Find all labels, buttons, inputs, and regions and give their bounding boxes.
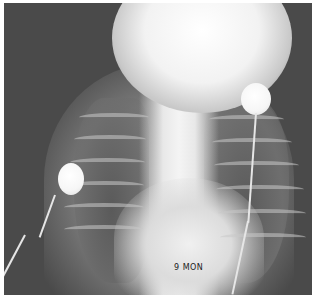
rib — [79, 113, 149, 122]
age-marker-label: 9 MON — [174, 263, 203, 272]
rib — [220, 233, 306, 242]
rib — [209, 115, 284, 124]
xray-image: 9 MON — [4, 3, 312, 295]
rib — [74, 135, 146, 144]
electrode-wire — [4, 235, 26, 289]
rib — [214, 161, 299, 170]
right-chest-electrode — [58, 163, 84, 195]
rib — [64, 225, 144, 234]
rib — [218, 209, 306, 218]
rib — [64, 203, 144, 212]
left-chest-electrode — [241, 83, 271, 115]
rib — [70, 158, 145, 167]
rib — [216, 185, 304, 194]
